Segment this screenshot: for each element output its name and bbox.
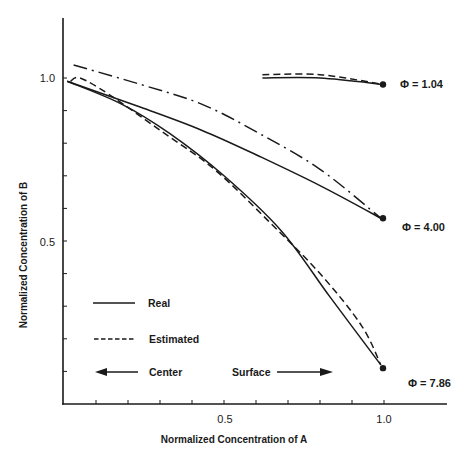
phi-label-400: Φ = 4.00 <box>402 221 445 233</box>
concentration-chart: 1.0 0.5 0.5 1.0 Normalized Concentration… <box>0 0 471 460</box>
axes <box>62 18 447 405</box>
x-axis-label: Normalized Concentration of A <box>161 434 307 445</box>
x-tick-label-05: 0.5 <box>217 413 232 425</box>
phi-label-786: Φ = 7.86 <box>408 377 451 389</box>
series-line-solid <box>67 81 381 218</box>
y-axis-label: Normalized Concentration of B <box>18 182 29 329</box>
arrow-right-icon <box>277 368 333 376</box>
endpoint-marker <box>380 215 386 221</box>
surface-label: Surface <box>232 366 271 378</box>
series-line-solid <box>67 81 381 365</box>
endpoint-marker <box>380 365 386 371</box>
y-tick-label-1: 1.0 <box>40 72 55 84</box>
center-label: Center <box>149 366 182 378</box>
endpoint-markers <box>380 81 386 371</box>
legend-real-label: Real <box>148 297 170 309</box>
direction-annotations: Center Surface <box>95 366 333 378</box>
legend-estimated-label: Estimated <box>149 333 199 345</box>
phi-label-104: Φ = 1.04 <box>400 78 444 90</box>
series-line-dashed <box>70 77 380 364</box>
x-tick-label-1: 1.0 <box>376 413 391 425</box>
arrow-left-icon <box>95 368 138 376</box>
series-layer <box>67 65 384 365</box>
endpoint-marker <box>380 81 386 87</box>
y-tick-label-05: 0.5 <box>40 236 55 248</box>
legend: Real Estimated <box>93 297 199 345</box>
